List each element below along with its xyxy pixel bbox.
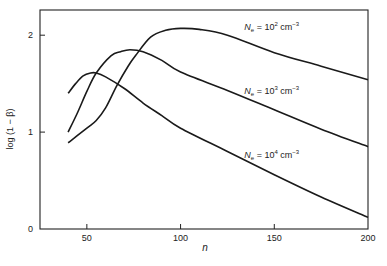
x-axis-label: n: [202, 242, 208, 253]
y-axis-label: log (1 − β): [5, 109, 15, 150]
x-tick-label: 150: [267, 233, 282, 243]
x-tick-label: 50: [82, 233, 92, 243]
series-label-3: Ne = 104 cm−3: [244, 149, 299, 161]
curves: [68, 28, 368, 217]
y-tick-label: 1: [28, 127, 33, 137]
y-tick-label: 0: [28, 224, 33, 234]
x-tick-label: 100: [173, 233, 188, 243]
y-tick-label: 2: [28, 30, 33, 40]
series-label-2: Ne = 103 cm−3: [244, 85, 299, 97]
axes: 50100150200012: [28, 10, 376, 243]
chart: 50100150200012 Ne = 102 cm−3Ne = 103 cm−…: [0, 0, 387, 266]
series-line-1: [68, 28, 368, 142]
x-tick-label: 200: [360, 233, 375, 243]
series-labels: Ne = 102 cm−3Ne = 103 cm−3Ne = 104 cm−3: [244, 21, 299, 161]
series-label-1: Ne = 102 cm−3: [244, 21, 299, 33]
series-line-2: [68, 50, 368, 147]
